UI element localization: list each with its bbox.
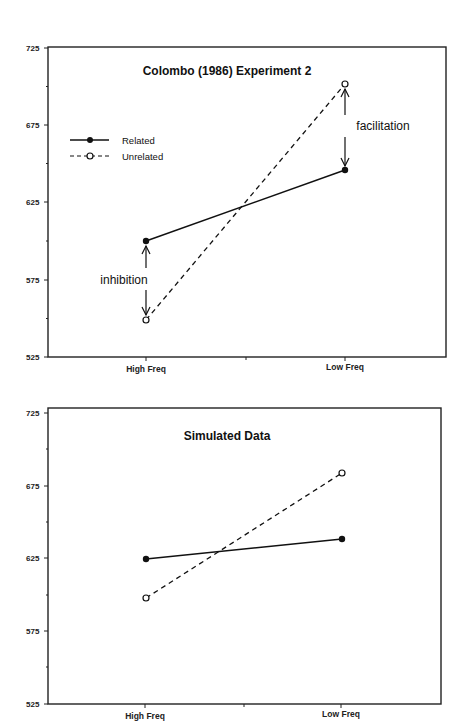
- legend: Related Unrelated: [70, 135, 163, 162]
- legend-label-unrelated: Unrelated: [122, 151, 163, 162]
- series-unrelated-line: [146, 84, 345, 320]
- chart-title: Simulated Data: [184, 429, 271, 443]
- y-tick-label: 525: [26, 700, 40, 709]
- y-tick-label: 575: [26, 276, 40, 285]
- data-point-related: [143, 238, 149, 244]
- x-category-label: Low Freq: [322, 709, 360, 719]
- x-category-label: Low Freq: [326, 362, 364, 372]
- annotation-facilitation: facilitation: [356, 119, 409, 133]
- annotation-inhibition: inhibition: [100, 273, 147, 287]
- y-tick-label: 725: [26, 44, 40, 53]
- plot-frame-top: [48, 47, 446, 357]
- data-point-related: [342, 167, 348, 173]
- data-point-unrelated: [342, 81, 348, 87]
- y-tick-label: 575: [26, 627, 40, 636]
- y-tick-label: 625: [26, 198, 40, 207]
- y-tick-label: 675: [26, 121, 40, 130]
- plot-frame-bottom: [48, 408, 441, 704]
- chart-title: Colombo (1986) Experiment 2: [143, 64, 312, 78]
- y-tick-label: 525: [26, 353, 40, 362]
- facilitation-arrow: [341, 89, 349, 166]
- legend-label-related: Related: [122, 135, 155, 146]
- data-point-unrelated: [143, 595, 149, 601]
- series-related-line: [146, 170, 345, 241]
- y-tick-label: 725: [26, 409, 40, 418]
- series-related-line: [146, 539, 342, 559]
- y-tick-label: 625: [26, 554, 40, 563]
- y-tick-label: 675: [26, 482, 40, 491]
- data-point-unrelated: [143, 317, 149, 323]
- chart-bottom: 725 675 625 575 525 High Freq Low Freq S…: [26, 408, 441, 721]
- data-point-related: [143, 556, 149, 562]
- x-category-label: High Freq: [125, 711, 165, 721]
- series-unrelated-line: [146, 473, 342, 598]
- chart-top: 725 675 625 575 525 High Freq Low Freq C…: [26, 44, 446, 374]
- data-point-related: [339, 536, 345, 542]
- x-category-label: High Freq: [126, 364, 166, 374]
- data-point-unrelated: [339, 470, 345, 476]
